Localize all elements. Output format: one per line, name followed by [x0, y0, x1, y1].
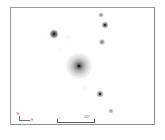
- astronomical-figure: 10" N E: [0, 0, 165, 140]
- sky-image-canvas: [13, 10, 152, 122]
- compass-north-label: N: [17, 112, 20, 116]
- source-marker: [109, 109, 114, 114]
- compass-east-label: E: [31, 118, 33, 122]
- source-marker: [82, 85, 88, 91]
- source-marker: [65, 34, 71, 40]
- source-marker: [115, 32, 119, 36]
- source-core: [78, 65, 81, 68]
- source-core: [104, 24, 106, 26]
- scale-bar-label: 10": [84, 114, 90, 119]
- scale-bar: 10": [57, 117, 95, 124]
- compass-east-line: [19, 120, 30, 121]
- scale-bar-tick-left: [57, 119, 58, 123]
- source-marker: [99, 39, 105, 45]
- source-marker: [55, 23, 59, 27]
- source-marker: [71, 77, 76, 82]
- source-marker: [99, 13, 104, 18]
- scale-bar-line: [57, 122, 95, 123]
- orientation-compass: N E: [16, 116, 36, 124]
- source-marker: [45, 37, 50, 42]
- source-core: [53, 33, 55, 35]
- source-marker: [69, 44, 74, 49]
- source-marker: [58, 48, 63, 53]
- source-marker: [91, 102, 96, 107]
- source-core: [99, 93, 101, 95]
- scale-bar-tick-right: [94, 119, 95, 123]
